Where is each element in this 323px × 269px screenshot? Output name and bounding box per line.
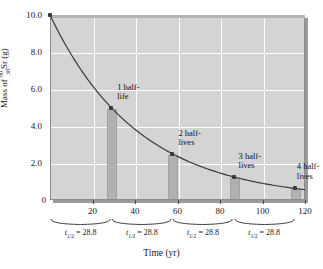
- half-life-brace: [50, 219, 111, 226]
- y-axis-tick-label: 2.0: [12, 158, 42, 168]
- y-axis-tick-label: 0: [16, 195, 46, 205]
- half-life-brace-label: t1/2 = 28.8: [126, 228, 158, 239]
- x-axis-tick: [263, 200, 264, 204]
- half-life-brace-label: t1/2 = 28.8: [187, 228, 219, 239]
- x-axis-tick-label: 60: [166, 206, 190, 216]
- y-axis-tick-label: 6.0: [12, 84, 42, 94]
- y-axis-tick-label: 4.0: [12, 121, 42, 131]
- half-life-brace-label: t1/2 = 28.8: [248, 228, 280, 239]
- half-life-label: 4 half-lives: [297, 162, 319, 181]
- y-axis-title: Mass of 9038Sr (g): [0, 48, 11, 108]
- half-life-label-line2: life: [117, 92, 139, 102]
- data-point-marker: [232, 175, 236, 179]
- x-axis-tick: [305, 200, 306, 204]
- data-point-marker: [170, 152, 174, 156]
- half-life-brace-label: t1/2 = 28.8: [65, 228, 97, 239]
- half-life-label: 1 half-life: [117, 83, 139, 102]
- half-life-label: 2 half-lives: [178, 129, 200, 148]
- x-axis-tick-label: 80: [208, 206, 232, 216]
- half-life-label-line2: lives: [178, 138, 200, 148]
- x-axis-tick: [135, 200, 136, 204]
- half-life-brace: [234, 219, 295, 226]
- half-life-brace: [111, 219, 172, 226]
- decay-curve: [50, 15, 305, 200]
- data-point-marker: [48, 13, 52, 17]
- data-point-marker: [109, 106, 113, 110]
- half-life-label-line2: lives: [239, 161, 261, 171]
- data-point-marker: [293, 186, 297, 190]
- x-axis-tick: [93, 200, 94, 204]
- x-axis-tick-label: 20: [81, 206, 105, 216]
- x-axis-tick: [220, 200, 221, 204]
- x-axis-tick-label: 40: [123, 206, 147, 216]
- x-axis-title: Time (yr): [0, 248, 323, 258]
- y-axis-tick-label: 8.0: [12, 47, 42, 57]
- decay-chart: 1 half-life2 half-lives3 half-lives4 hal…: [0, 0, 323, 269]
- y-axis-tick-label: 10.0: [12, 10, 42, 20]
- half-life-label-line2: lives: [297, 172, 319, 182]
- x-axis-tick: [178, 200, 179, 204]
- x-axis-tick-label: 100: [251, 206, 275, 216]
- x-axis-tick-label: 120: [293, 206, 317, 216]
- half-life-label: 3 half-lives: [239, 152, 261, 171]
- half-life-brace: [172, 219, 233, 226]
